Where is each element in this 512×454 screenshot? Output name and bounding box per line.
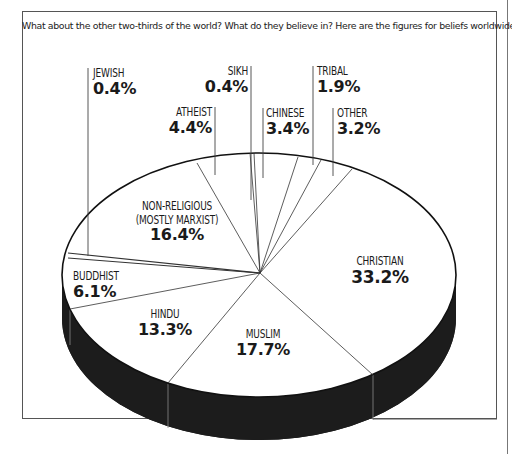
label-christian-name: CHRISTIAN <box>353 256 408 268</box>
label-chinese: CHINESE 3.4% <box>266 108 315 137</box>
label-atheist-name: ATHEIST <box>171 107 212 119</box>
label-hindu: HINDU 13.3% <box>130 309 200 338</box>
label-buddhist-name: BUDDHIST <box>73 271 119 283</box>
label-nonreligious-name-1: NON-RELIGIOUS <box>134 201 220 213</box>
label-tribal-name: TRIBAL <box>317 66 351 78</box>
label-tribal: TRIBAL 1.9% <box>317 66 360 95</box>
label-christian-pct: 33.2% <box>345 269 415 286</box>
label-christian: CHRISTIAN 33.2% <box>345 256 415 286</box>
label-jewish-pct: 0.4% <box>93 81 136 97</box>
label-chinese-name: CHINESE <box>266 108 304 120</box>
label-other: OTHER 3.2% <box>337 108 380 137</box>
label-nonreligious: NON-RELIGIOUS (MOSTLY MARXIST) 16.4% <box>122 201 232 243</box>
label-nonreligious-pct: 16.4% <box>122 227 232 243</box>
label-muslim-name: MUSLIM <box>236 329 291 341</box>
label-atheist: ATHEIST 4.4% <box>160 107 212 136</box>
label-hindu-pct: 13.3% <box>130 322 200 338</box>
pie-chart-3d <box>0 0 512 454</box>
label-hindu-name: HINDU <box>138 309 193 321</box>
label-sikh-name: SIKH <box>207 66 248 78</box>
label-tribal-pct: 1.9% <box>317 79 360 95</box>
label-muslim: MUSLIM 17.7% <box>228 329 298 358</box>
label-muslim-pct: 17.7% <box>228 342 298 358</box>
label-jewish: JEWISH 0.4% <box>93 68 136 97</box>
label-sikh-pct: 0.4% <box>196 79 248 95</box>
label-nonreligious-name-2: (MOSTLY MARXIST) <box>134 215 220 227</box>
label-atheist-pct: 4.4% <box>160 120 212 136</box>
label-other-pct: 3.2% <box>337 121 380 137</box>
label-sikh: SIKH 0.4% <box>196 66 248 95</box>
label-jewish-name: JEWISH <box>93 68 127 80</box>
label-buddhist: BUDDHIST 6.1% <box>73 271 132 300</box>
label-other-name: OTHER <box>337 108 371 120</box>
label-buddhist-pct: 6.1% <box>73 284 132 300</box>
label-chinese-pct: 3.4% <box>266 121 315 137</box>
